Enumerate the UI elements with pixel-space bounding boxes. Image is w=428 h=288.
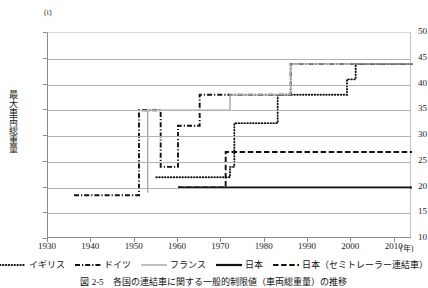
legend-label: イギリス — [29, 258, 65, 271]
legend-label: ドイツ — [104, 258, 131, 271]
legend-swatch-icon — [216, 261, 242, 269]
x-tick-label: 1950 — [113, 241, 155, 251]
gridline-horizontal — [48, 136, 410, 137]
legend-uk[interactable]: イギリス — [0, 258, 65, 271]
gridline-horizontal — [48, 188, 410, 189]
legend-france[interactable]: フランス — [141, 258, 206, 271]
x-tick-label: 1970 — [199, 241, 241, 251]
x-axis-unit: (年) — [400, 242, 413, 253]
legend-label: 日本（セミトレーラー連結車） — [302, 258, 428, 271]
legend-label: フランス — [170, 258, 206, 271]
gridline-horizontal — [48, 162, 410, 163]
legend-germany[interactable]: ドイツ — [75, 258, 131, 271]
x-tick-label: 1960 — [156, 241, 198, 251]
series-line — [156, 64, 412, 177]
legend-swatch-icon — [0, 261, 26, 269]
x-tick-label: 2000 — [329, 241, 371, 251]
legend-label: 日本 — [245, 258, 263, 271]
gridline-horizontal — [48, 59, 410, 60]
gridline-horizontal — [48, 110, 410, 111]
x-tick-label: 1940 — [69, 241, 111, 251]
legend-japan[interactable]: 日本 — [216, 258, 263, 271]
legend-japan-semitrailer[interactable]: 日本（セミトレーラー連結車） — [273, 258, 428, 271]
series-line — [148, 64, 412, 193]
chart-legend: イギリスドイツフランス日本日本（セミトレーラー連結車） — [0, 258, 427, 271]
plot-area — [47, 32, 411, 238]
figure-caption: 図 2-5 各国の連結車に関する一般的制限値（車両総重量）の推移 — [0, 275, 427, 288]
y-axis-title: 最大車両総重量 — [6, 90, 18, 153]
legend-swatch-icon — [75, 261, 101, 269]
x-tick-label: 1930 — [26, 241, 68, 251]
y-axis-unit: (t) — [44, 8, 52, 17]
series-line — [178, 152, 412, 188]
x-tick-label: 1990 — [286, 241, 328, 251]
x-tick-label: 1980 — [243, 241, 285, 251]
gridline-horizontal — [48, 85, 410, 86]
legend-swatch-icon — [141, 261, 167, 269]
legend-swatch-icon — [273, 261, 299, 269]
gridline-horizontal — [48, 213, 410, 214]
